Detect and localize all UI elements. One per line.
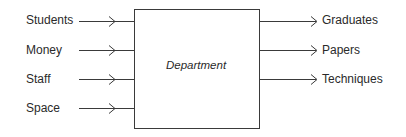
- output-arrow-papers: [260, 46, 317, 56]
- input-label-money: Money: [26, 43, 62, 57]
- input-label-staff: Staff: [26, 72, 50, 86]
- input-arrow-staff: [79, 75, 134, 85]
- input-label-students: Students: [26, 13, 73, 27]
- process-label-department: Department: [166, 58, 226, 72]
- input-arrow-money: [79, 46, 134, 56]
- input-arrow-space: [79, 104, 134, 114]
- output-arrow-graduates: [260, 17, 317, 27]
- output-label-graduates: Graduates: [322, 13, 378, 27]
- input-label-space: Space: [26, 101, 60, 115]
- output-label-papers: Papers: [322, 43, 360, 57]
- output-label-techniques: Techniques: [322, 72, 383, 86]
- output-arrow-techniques: [260, 75, 317, 85]
- input-arrow-students: [79, 17, 134, 27]
